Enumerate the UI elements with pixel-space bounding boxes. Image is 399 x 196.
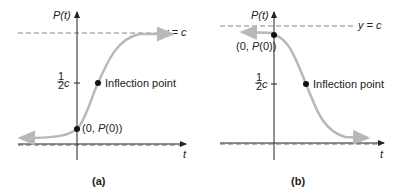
x-axis-label: t xyxy=(183,148,187,160)
initial-point-label: (0, P(0)) xyxy=(82,122,122,134)
y-axis-label: P(t) xyxy=(251,9,269,21)
initial-point xyxy=(74,126,80,132)
logistic-diagrams: y = c t P(t) 1 2 c (0, P(0)) Inflection … xyxy=(0,0,399,196)
panel-b: y = c t P(t) 1 2 c (0, P(0)) Inflection … xyxy=(220,9,384,187)
asymptote-label: y = c xyxy=(357,19,382,31)
inflection-label: Inflection point xyxy=(313,78,384,90)
initial-point xyxy=(271,32,277,38)
caption-b: (b) xyxy=(291,175,305,187)
y-axis-label: P(t) xyxy=(53,9,71,21)
half-c-label: c xyxy=(64,77,70,89)
initial-point-label: (0, P(0)) xyxy=(236,40,276,52)
inflection-point xyxy=(303,81,309,87)
asymptote-label: y = c xyxy=(162,26,187,38)
panel-a: y = c t P(t) 1 2 c (0, P(0)) Inflection … xyxy=(18,9,187,187)
half-c-label: c xyxy=(262,78,268,90)
caption-a: (a) xyxy=(92,175,106,187)
x-axis-label: t xyxy=(380,148,384,160)
inflection-label: Inflection point xyxy=(105,77,176,89)
inflection-point xyxy=(95,80,101,86)
